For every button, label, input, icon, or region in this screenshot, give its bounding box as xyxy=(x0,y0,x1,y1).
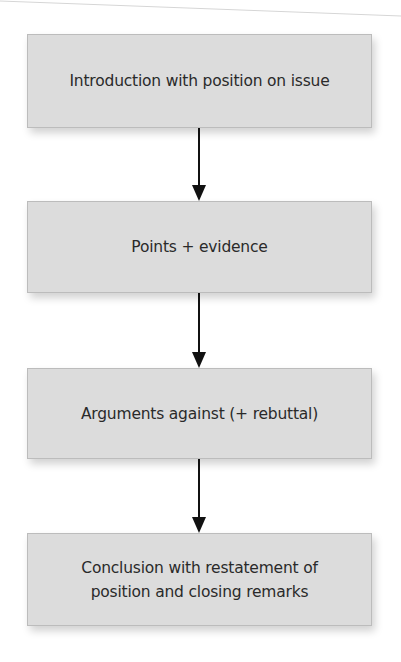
arrow-down-icon xyxy=(192,293,206,368)
step-label-line-2: position and closing remarks xyxy=(81,580,317,604)
arrow-head xyxy=(192,517,206,533)
arrow-shaft xyxy=(198,128,200,188)
step-label: Points + evidence xyxy=(131,235,267,259)
arrow-shaft xyxy=(198,459,200,520)
flow-step-introduction: Introduction with position on issue xyxy=(27,34,372,128)
arrow-head xyxy=(192,185,206,201)
arrow-down-icon xyxy=(192,128,206,201)
arrow-down-icon xyxy=(192,459,206,533)
step-label-line-1: Conclusion with restatement of xyxy=(81,556,317,580)
step-label: Introduction with position on issue xyxy=(70,69,330,93)
flow-step-points-evidence: Points + evidence xyxy=(27,201,372,293)
flow-step-arguments-against: Arguments against (+ rebuttal) xyxy=(27,368,372,459)
scan-edge-line xyxy=(0,0,401,20)
step-label: Arguments against (+ rebuttal) xyxy=(81,402,318,426)
arrow-shaft xyxy=(198,293,200,355)
arrow-head xyxy=(192,352,206,368)
flow-step-conclusion: Conclusion with restatement of position … xyxy=(27,533,372,626)
